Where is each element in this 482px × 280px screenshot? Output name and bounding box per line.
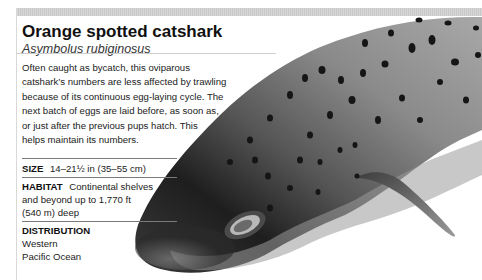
description-line: catshark’s numbers are less affected by … — [22, 75, 262, 89]
description-line: helps maintain its numbers. — [22, 133, 262, 147]
stat-size: SIZE 14–21½ in (35–55 cm) — [22, 159, 182, 177]
species-description: Often caught as bycatch, this oviparous … — [22, 61, 262, 147]
stat-size-label: SIZE — [22, 163, 43, 174]
description-line: or just after the previous pups hatch. T… — [22, 119, 262, 133]
stat-habitat: HABITAT Continental shelves and beyond u… — [22, 178, 182, 221]
description-line: next batch of eggs are laid before, as s… — [22, 104, 262, 118]
species-header: Orange spotted catshark Asymbolus rubigi… — [22, 22, 322, 56]
species-stats: SIZE 14–21½ in (35–55 cm) HABITAT Contin… — [22, 158, 182, 265]
species-common-name: Orange spotted catshark — [22, 22, 322, 41]
description-line: Often caught as bycatch, this oviparous — [22, 61, 262, 75]
stat-habitat-label: HABITAT — [22, 181, 63, 192]
header-divider — [16, 53, 276, 54]
stat-distribution-label: DISTRIBUTION — [22, 225, 90, 236]
stat-distribution-value: Western — [22, 237, 182, 250]
stat-habitat-value: Continental shelves — [69, 181, 153, 192]
stat-habitat-value: and beyond up to 1,770 ft — [22, 194, 131, 205]
description-line: because of its continuous egg-laying cyc… — [22, 90, 262, 104]
stat-size-value: 14–21½ in (35–55 cm) — [50, 163, 146, 174]
stat-distribution-value: Pacific Ocean — [22, 250, 182, 263]
stat-habitat-value: (540 m) deep — [22, 207, 79, 218]
stat-distribution: DISTRIBUTION Western Pacific Ocean — [22, 222, 182, 265]
